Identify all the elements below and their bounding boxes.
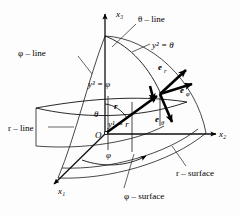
callout-phi-surface: φ – surface bbox=[124, 191, 164, 201]
coordinate-label-y2: y² = θ bbox=[151, 40, 174, 50]
basis-vector-e-theta bbox=[160, 94, 172, 122]
leader-phi-line bbox=[78, 56, 92, 74]
origin-label: O bbox=[95, 130, 102, 140]
angle-label-theta: θ bbox=[94, 109, 99, 119]
basis-label-e-phi-sub: φ bbox=[186, 90, 190, 97]
basis-label-e-r: e r bbox=[158, 62, 167, 74]
spherical-coordinates-diagram: x₃ x₂ x₁ O θ – line φ – line r – line r … bbox=[0, 0, 240, 215]
leader-theta-line bbox=[112, 24, 136, 47]
leader-y2-theta bbox=[132, 44, 150, 52]
callout-phi-line: φ – line bbox=[18, 48, 46, 58]
basis-label-e-r-base: e bbox=[158, 62, 162, 72]
coordinate-label-y1: y¹ = r bbox=[107, 119, 129, 129]
origin-marker bbox=[104, 131, 107, 134]
axis-label-x1: x₁ bbox=[57, 186, 65, 196]
figure-root: x₃ x₂ x₁ O θ – line φ – line r – line r … bbox=[0, 0, 240, 215]
axis-label-x2: x₂ bbox=[218, 129, 226, 139]
callout-r-surface: r – surface bbox=[176, 168, 214, 178]
callout-theta-line: θ – line bbox=[138, 14, 165, 24]
basis-label-e-theta-base: e bbox=[155, 114, 159, 124]
basis-label-e-phi-base: e bbox=[180, 85, 184, 95]
leader-r-surface bbox=[172, 146, 186, 166]
basis-label-e-theta-sub: θ bbox=[161, 119, 165, 126]
basis-label-e-r-sub: r bbox=[164, 67, 167, 74]
coordinate-label-y3: y³ = φ bbox=[87, 79, 110, 89]
axis-label-x3: x₃ bbox=[115, 9, 123, 19]
phi-surface-plane bbox=[36, 92, 164, 152]
callout-r-line: r – line bbox=[8, 123, 34, 133]
position-vector-label: r bbox=[114, 101, 118, 111]
angle-label-phi: φ bbox=[106, 150, 111, 160]
